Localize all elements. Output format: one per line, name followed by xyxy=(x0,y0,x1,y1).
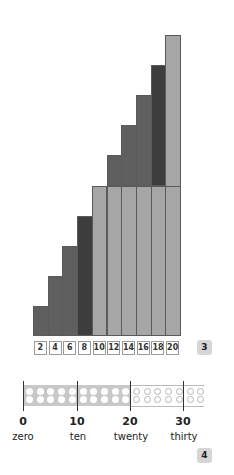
bar-2 xyxy=(33,306,49,336)
bar-16-extra xyxy=(136,95,152,186)
empty-dot xyxy=(133,396,140,403)
filled-dot xyxy=(112,388,119,395)
empty-dot xyxy=(176,388,183,395)
number-line-ten-frame xyxy=(23,385,204,406)
filled-dot xyxy=(69,388,76,395)
bar-label: 4 xyxy=(49,341,62,355)
bar-label: 12 xyxy=(107,341,120,355)
panel-4-badge: 4 xyxy=(197,448,212,463)
filled-dot xyxy=(112,396,119,403)
bar-label: 20 xyxy=(166,341,179,355)
tick-number: 10 xyxy=(69,415,84,428)
bar-label: 18 xyxy=(151,341,164,355)
bar-20-ten-block xyxy=(165,186,181,337)
bar-12-extra xyxy=(107,155,123,186)
bar-label: 14 xyxy=(122,341,135,355)
tick-30 xyxy=(183,381,184,411)
tick-number: 20 xyxy=(122,415,137,428)
bar-6 xyxy=(62,246,78,336)
tick-10 xyxy=(77,381,78,411)
tick-word: twenty xyxy=(114,431,148,442)
filled-dot xyxy=(26,396,33,403)
bar-label: 16 xyxy=(137,341,150,355)
empty-dot xyxy=(144,396,151,403)
tick-number: 30 xyxy=(175,415,190,428)
empty-dot xyxy=(133,388,140,395)
filled-dot xyxy=(101,396,108,403)
bar-18-extra xyxy=(151,65,167,186)
filled-dot xyxy=(80,388,87,395)
tick-0 xyxy=(23,381,24,411)
filled-dot xyxy=(26,388,33,395)
empty-dot xyxy=(176,396,183,403)
filled-dot xyxy=(69,396,76,403)
bar-14-ten-block xyxy=(121,186,137,337)
bar-14-extra xyxy=(121,125,137,186)
bar-label: 6 xyxy=(63,341,76,355)
filled-dot xyxy=(101,388,108,395)
tick-word: ten xyxy=(70,431,86,442)
bar-10-ten-block xyxy=(92,186,108,337)
filled-dot xyxy=(37,388,44,395)
empty-dot xyxy=(144,388,151,395)
bar-label: 8 xyxy=(78,341,91,355)
bar-16-ten-block xyxy=(136,186,152,337)
bar-8 xyxy=(77,216,93,336)
filled-dot xyxy=(37,396,44,403)
panel-3-badge: 3 xyxy=(197,340,212,355)
empty-dot xyxy=(187,388,194,395)
tick-word: zero xyxy=(12,431,33,442)
bar-label: 2 xyxy=(34,341,47,355)
tick-number: 0 xyxy=(19,415,27,428)
tick-20 xyxy=(130,381,131,411)
empty-dot xyxy=(187,396,194,403)
bar-label: 10 xyxy=(93,341,106,355)
bar-20-extra xyxy=(165,35,181,187)
filled-dot xyxy=(80,396,87,403)
tick-word: thirty xyxy=(171,431,198,442)
bar-12-ten-block xyxy=(107,186,123,337)
bar-18-ten-block xyxy=(151,186,167,337)
bar-4 xyxy=(48,276,64,336)
